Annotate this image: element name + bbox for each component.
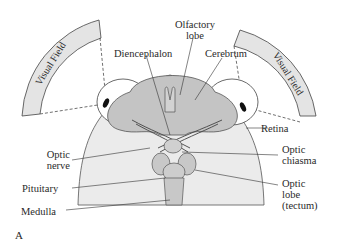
olfactory-lobe-label: Olfactory lobe: [170, 19, 220, 41]
left-visual-field-band: [22, 20, 101, 116]
optic-chiasma: [164, 139, 182, 153]
pituitary-label: Pituitary: [22, 183, 58, 194]
medulla-label: Medulla: [21, 206, 56, 217]
optic-nerve-label: Optic nerve: [30, 149, 70, 171]
medulla: [164, 178, 184, 205]
optic-lobe-label: Optic lobe (tectum): [282, 178, 318, 211]
panel-label: A: [15, 230, 23, 241]
cerebrum-label: Cerebrum: [205, 48, 247, 59]
optic-chiasma-label: Optic chiasma: [282, 144, 316, 166]
retina-label: Retina: [261, 123, 288, 134]
diencephalon-label: Diencephalon: [114, 48, 172, 59]
